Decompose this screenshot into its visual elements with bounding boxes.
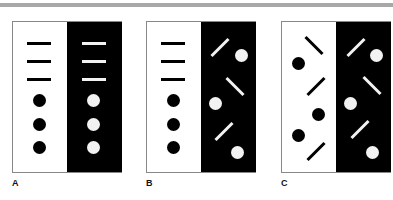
tilted-bar-shape xyxy=(306,142,325,161)
panel-b-left xyxy=(147,22,201,172)
bar-shape xyxy=(27,42,51,45)
tilted-bar-shape xyxy=(225,77,244,96)
panel-c-left xyxy=(282,22,336,172)
panel-label-a: A xyxy=(12,178,19,188)
bar-shape xyxy=(161,60,185,63)
dot-shape xyxy=(292,57,305,70)
bar-shape xyxy=(27,60,51,63)
bar-shape xyxy=(82,42,106,45)
panel-b-right xyxy=(201,22,256,172)
tilted-bar-shape xyxy=(214,122,233,141)
dot-shape xyxy=(33,141,46,154)
top-rule xyxy=(0,3,393,7)
dot-shape xyxy=(87,118,100,131)
tilted-bar-shape xyxy=(304,36,323,55)
dot-shape xyxy=(33,118,46,131)
dot-shape xyxy=(366,146,379,159)
tilted-bar-shape xyxy=(346,38,365,57)
dot-shape xyxy=(33,94,46,107)
tilted-bar-shape xyxy=(350,120,369,139)
tilted-bar-shape xyxy=(306,77,325,96)
panel-label-b: B xyxy=(146,178,153,188)
panel-a-right xyxy=(67,22,122,172)
tilted-bar-shape xyxy=(362,76,381,95)
panel-a-left xyxy=(13,22,67,172)
panel-c xyxy=(281,21,391,173)
dot-shape xyxy=(235,49,248,62)
panel-a xyxy=(12,21,122,173)
dot-shape xyxy=(87,94,100,107)
dot-shape xyxy=(167,94,180,107)
dot-shape xyxy=(209,97,222,110)
panel-c-right xyxy=(336,22,391,172)
dot-shape xyxy=(231,146,244,159)
dot-shape xyxy=(167,141,180,154)
bar-shape xyxy=(82,60,106,63)
dot-shape xyxy=(312,108,325,121)
panel-b xyxy=(146,21,256,173)
bar-shape xyxy=(161,42,185,45)
panel-label-c: C xyxy=(281,178,288,188)
tilted-bar-shape xyxy=(210,38,229,57)
bar-shape xyxy=(161,78,185,81)
dot-shape xyxy=(370,49,383,62)
dot-shape xyxy=(344,97,357,110)
bar-shape xyxy=(82,78,106,81)
dot-shape xyxy=(87,141,100,154)
dot-shape xyxy=(292,129,305,142)
bar-shape xyxy=(27,78,51,81)
dot-shape xyxy=(167,118,180,131)
